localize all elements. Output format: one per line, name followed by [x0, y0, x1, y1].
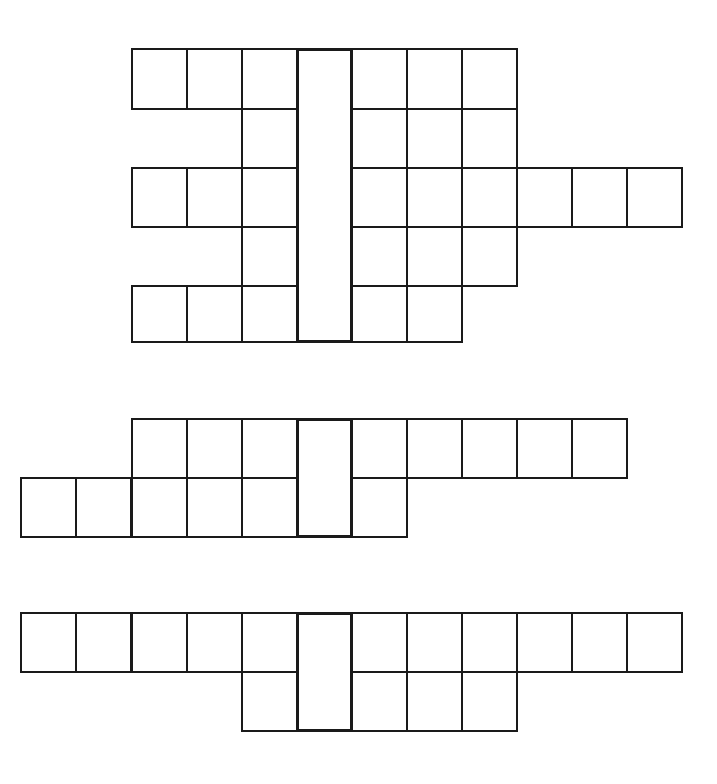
grid-cell[interactable]	[626, 612, 683, 673]
grid-cell[interactable]	[186, 418, 243, 479]
grid-cell[interactable]	[131, 612, 188, 673]
grid-cell[interactable]	[131, 48, 188, 110]
grid-cell[interactable]	[351, 167, 408, 228]
grid-cell[interactable]	[241, 108, 298, 169]
grid-cell[interactable]	[571, 418, 628, 479]
grid-cell[interactable]	[461, 671, 518, 732]
grid-cell[interactable]	[186, 477, 243, 538]
grid-cell[interactable]	[406, 418, 463, 479]
grid-cell[interactable]	[406, 108, 463, 169]
grid-cell[interactable]	[516, 612, 573, 673]
key-column[interactable]	[296, 418, 353, 538]
grid-cell[interactable]	[20, 477, 77, 538]
grid-cell[interactable]	[351, 477, 408, 538]
grid-cell[interactable]	[75, 612, 132, 673]
grid-cell[interactable]	[406, 167, 463, 228]
grid-cell[interactable]	[20, 612, 77, 673]
grid-cell[interactable]	[571, 612, 628, 673]
grid-cell[interactable]	[75, 477, 132, 538]
grid-cell[interactable]	[131, 285, 188, 343]
grid-cell[interactable]	[461, 612, 518, 673]
grid-cell[interactable]	[186, 285, 243, 343]
grid-cell[interactable]	[131, 477, 188, 538]
grid-cell[interactable]	[131, 167, 188, 228]
grid-cell[interactable]	[186, 48, 243, 110]
grid-cell[interactable]	[241, 226, 298, 287]
grid-cell[interactable]	[461, 418, 518, 479]
grid-cell[interactable]	[516, 167, 573, 228]
grid-cell[interactable]	[351, 226, 408, 287]
grid-cell[interactable]	[351, 108, 408, 169]
grid-cell[interactable]	[461, 226, 518, 287]
grid-cell[interactable]	[406, 48, 463, 110]
key-column[interactable]	[296, 612, 353, 732]
grid-cell[interactable]	[351, 418, 408, 479]
grid-cell[interactable]	[241, 671, 298, 732]
grid-cell[interactable]	[241, 612, 298, 673]
grid-cell[interactable]	[461, 167, 518, 228]
grid-cell[interactable]	[516, 418, 573, 479]
grid-cell[interactable]	[241, 48, 298, 110]
grid-cell[interactable]	[571, 167, 628, 228]
grid-cell[interactable]	[351, 285, 408, 343]
grid-cell[interactable]	[131, 418, 188, 479]
grid-cell[interactable]	[351, 48, 408, 110]
grid-cell[interactable]	[406, 671, 463, 732]
grid-cell[interactable]	[626, 167, 683, 228]
grid-cell[interactable]	[351, 671, 408, 732]
grid-cell[interactable]	[241, 418, 298, 479]
grid-cell[interactable]	[406, 285, 463, 343]
grid-cell[interactable]	[406, 226, 463, 287]
grid-cell[interactable]	[241, 477, 298, 538]
grid-cell[interactable]	[241, 167, 298, 228]
grid-cell[interactable]	[241, 285, 298, 343]
grid-cell[interactable]	[186, 167, 243, 228]
key-column[interactable]	[296, 48, 353, 343]
grid-cell[interactable]	[461, 108, 518, 169]
grid-cell[interactable]	[186, 612, 243, 673]
grid-cell[interactable]	[406, 612, 463, 673]
grid-cell[interactable]	[351, 612, 408, 673]
grid-cell[interactable]	[461, 48, 518, 110]
